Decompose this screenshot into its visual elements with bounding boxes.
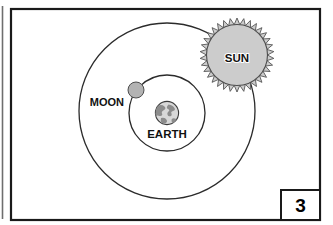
figure-number-box: 3 [281, 190, 320, 220]
moon-label: MOON [90, 96, 124, 108]
moon-disc [128, 82, 144, 98]
figure-container: SUN MOON EARTH [0, 0, 333, 225]
sun-label: SUN [225, 52, 249, 64]
earth-label: EARTH [147, 128, 187, 140]
figure-number: 3 [295, 195, 306, 216]
solar-system-diagram: SUN MOON EARTH [0, 0, 333, 225]
